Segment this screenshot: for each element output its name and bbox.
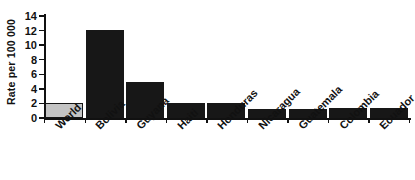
y-axis-title-text: Rate per 100 000 — [5, 19, 17, 105]
y-tick-label-6: 6 — [31, 68, 37, 80]
x-tick-colombia — [328, 118, 329, 123]
y-axis-title: Rate per 100 000 — [0, 0, 22, 124]
x-tick-haiti — [166, 118, 167, 123]
x-tick-nicaragua — [247, 118, 248, 123]
y-tick-label-14: 14 — [25, 10, 37, 22]
x-tick-world — [44, 118, 45, 123]
x-tick-guyana — [125, 118, 126, 123]
x-tick-ecuador — [368, 118, 369, 123]
bar-chart: Rate per 100 000 02468101214 WorldBolivi… — [0, 0, 415, 180]
y-tick-label-4: 4 — [31, 83, 37, 95]
y-tick-label-8: 8 — [31, 54, 37, 66]
y-tick-label-12: 12 — [25, 25, 37, 37]
x-tick-honduras — [206, 118, 207, 123]
y-tick-label-10: 10 — [25, 39, 37, 51]
x-tick-guatemala — [287, 118, 288, 123]
y-tick-label-0: 0 — [31, 112, 37, 124]
x-tick-bolivia — [85, 118, 86, 123]
y-tick-label-2: 2 — [31, 97, 37, 109]
x-axis-labels: WorldBoliviaGuyanaHaitiHondurasNicaragua… — [44, 0, 411, 60]
x-tick-end — [409, 118, 410, 123]
